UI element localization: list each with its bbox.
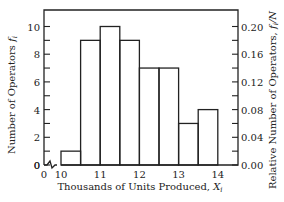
y-tick-label: 6 (34, 77, 40, 88)
right-y-axis-title: Relative Number of Operators, fi/N (267, 10, 280, 189)
right-y-axis: 0.000.040.080.120.160.20 (232, 22, 263, 172)
x-tick-label: 14 (211, 169, 224, 180)
histogram-bar (159, 68, 179, 165)
y-tick-label: 4 (34, 105, 40, 116)
plot-frame (44, 10, 238, 168)
x-tick-label: 12 (133, 169, 146, 180)
y-axis-title: Number of Operators fi (6, 36, 19, 154)
x-tick-label: 0 (41, 169, 47, 180)
x-axis-title: Thousands of Units Produced, Xi (57, 181, 222, 194)
histogram-chart: 0246810 0.000.040.080.120.160.20 0101112… (0, 0, 284, 202)
y-tick-label: 10 (27, 22, 40, 33)
x-tick-label: 11 (94, 169, 107, 180)
right-y-tick-label: 0.12 (241, 77, 263, 88)
y-tick-label: 2 (34, 132, 40, 143)
left-y-axis: 0246810 (27, 22, 50, 172)
right-y-tick-label: 0.04 (241, 132, 263, 143)
right-y-tick-label: 0.00 (241, 160, 263, 171)
right-y-tick-label: 0.08 (241, 105, 263, 116)
right-y-tick-label: 0.20 (241, 22, 263, 33)
histogram-bar (61, 151, 81, 165)
svg-text:0: 0 (34, 160, 40, 171)
x-tick-label: 10 (55, 169, 68, 180)
histogram-bar (100, 27, 120, 166)
histogram-bar (179, 123, 199, 165)
right-y-tick-label: 0.16 (241, 49, 263, 60)
histogram-bars (61, 27, 218, 166)
histogram-bar (120, 40, 140, 165)
histogram-bar (81, 40, 101, 165)
x-tick-label: 13 (172, 169, 185, 180)
y-tick-label: 8 (34, 49, 40, 60)
x-axis: 010111213140 (34, 160, 225, 180)
histogram-bar (139, 68, 159, 165)
histogram-bar (198, 110, 218, 165)
